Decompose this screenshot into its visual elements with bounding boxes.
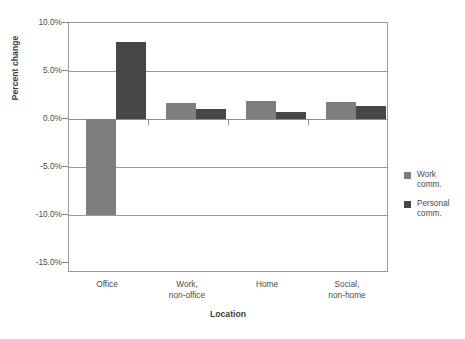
x-tick-label-office: Office [62,279,152,290]
x-tick-line1: Home [256,279,278,289]
y-tick-label: -5.0% [18,161,62,171]
gridline-minus5 [69,167,387,168]
bar-personal-comm-home [276,112,306,119]
x-tick-line1: Work, [176,279,198,289]
bar-work-comm-work-nonoffice [166,103,196,119]
plot-area [68,22,388,272]
x-tick-line2: non-home [328,290,365,300]
chart-figure: Percent change 10.0% 5.0% 0.0% -5.0% -10… [0,0,465,339]
bar-work-comm-social-nonhome [326,102,356,119]
chart-legend: Work comm. Personal comm. [404,170,462,228]
legend-swatch-icon [404,172,411,179]
legend-item-work-comm: Work comm. [404,170,462,190]
x-tick-line1: Office [96,279,118,289]
legend-label-line2: comm. [417,180,462,190]
bar-work-comm-home [246,101,276,119]
y-axis-ticks: 10.0% 5.0% 0.0% -5.0% -10.0% -15.0% [14,0,62,339]
legend-item-personal-comm: Personal comm. [404,199,462,219]
legend-label-line2: comm. [417,209,462,219]
x-tick-mark [148,120,149,125]
gridline-minus10 [69,215,387,216]
bar-personal-comm-office [116,42,146,119]
y-tick-label: 0.0% [18,113,62,123]
y-tick-label: 10.0% [18,17,62,27]
legend-label-line1: Work [417,170,462,180]
x-tick-line1: Social, [335,279,360,289]
bar-personal-comm-work-nonoffice [196,109,226,119]
x-tick-mark [308,120,309,125]
x-tick-label-social-nonhome: Social, non-home [302,279,392,301]
y-tick-label: 5.0% [18,65,62,75]
bar-work-comm-office [86,119,116,215]
x-tick-mark [228,120,229,125]
y-tick-label: -15.0% [18,257,62,267]
bar-personal-comm-social-nonhome [356,106,386,119]
legend-label-line1: Personal [417,199,462,209]
x-tick-line2: non-office [169,290,205,300]
y-tick-label: -10.0% [18,209,62,219]
x-tick-label-work-nonoffice: Work, non-office [142,279,232,301]
x-tick-label-home: Home [222,279,312,290]
legend-swatch-icon [404,201,411,208]
x-axis-title: Location [68,309,388,319]
